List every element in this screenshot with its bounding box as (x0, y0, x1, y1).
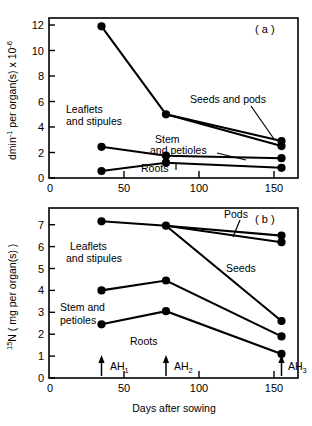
panel-b-ytick-7: 7 (38, 219, 44, 231)
panel-a-label-seeds-and-pods: Seeds and pods (190, 93, 266, 105)
panel-a-annotations: Leaflets and stipules Seeds and pods Ste… (66, 23, 275, 174)
panel-b-point-leaflets-35 (97, 217, 105, 225)
panel-b-tag: ( b ) (255, 213, 275, 225)
panel-b-x-axis-title: Days after sowing (132, 402, 216, 414)
panel-b-ylabel-main: N ( mg per organ(s) ) (6, 244, 18, 342)
panel-b-ylabel-sup: 15 (5, 342, 14, 350)
panel-a-xtick-100: 100 (190, 182, 208, 194)
panel-a-ytick-10: 10 (32, 45, 44, 57)
figure-container: 0 2 4 6 8 10 12 0 50 100 150 dmin-1 per … (0, 0, 312, 426)
panel-a-ylabel-sup1: -1 (5, 131, 14, 138)
panel-b-y-tick-labels: 0 1 2 3 4 5 6 7 (38, 219, 44, 384)
panel-b-label-leaflets-2: and stipules (66, 252, 122, 264)
panel-a-point-roots-35 (97, 167, 105, 175)
panel-b-label-ah3-sub: 3 (303, 366, 307, 375)
panel-b-label-ah3-base: AH (288, 360, 303, 372)
panel-a-ytick-12: 12 (32, 19, 44, 31)
panel-b-label-stem-2: petioles (60, 314, 96, 326)
panel-a-ytick-0: 0 (38, 172, 44, 184)
panel-b-xtick-50: 50 (118, 382, 130, 394)
panel-a-line-roots (102, 163, 282, 171)
panel-a-xtick-150: 150 (265, 182, 283, 194)
panel-b-label-ah2-sub: 2 (189, 366, 193, 375)
panel-a-y-axis-title: dmin-1 per organ(s) x 10-6 (5, 41, 18, 160)
panel-b-chart: 0 1 2 3 4 5 6 7 0 50 100 150 Days after … (0, 200, 312, 426)
panel-b-label-ah2-base: AH (174, 360, 189, 372)
panel-b-arrowhead-ah2 (163, 355, 169, 363)
panel-b-point-roots-35 (97, 320, 105, 328)
panel-b-ytick-0: 0 (38, 372, 44, 384)
panel-a-leader-lines (176, 106, 274, 170)
panel-a-line-leaflets (102, 26, 282, 141)
panel-a-point-stem-155 (277, 154, 285, 162)
panel-a-ytick-8: 8 (38, 70, 44, 82)
panel-a-line-seeds-and-pods (166, 114, 282, 146)
panel-b-ytick-5: 5 (38, 263, 44, 275)
panel-b-label-ah1-sub: 1 (125, 366, 129, 375)
panel-a-chart: 0 2 4 6 8 10 12 0 50 100 150 dmin-1 per … (0, 0, 312, 200)
panel-a-label-leaflets-2: and stipules (66, 115, 122, 127)
panel-b-label-ah1: AH1 (110, 360, 129, 375)
svg-text:15N ( mg per organ(s) ): 15N ( mg per organ(s) ) (5, 244, 18, 350)
panel-b-point-seeds-155 (277, 238, 285, 246)
panel-b-ytick-1: 1 (38, 350, 44, 362)
panel-b-point-leaflets-155 (277, 317, 285, 325)
panel-a-y-ticks (49, 25, 55, 178)
panel-b-xtick-0: 0 (47, 382, 53, 394)
panel-b-line-stem (102, 281, 282, 337)
panel-a-ylabel-mid: per organ(s) x 10 (6, 48, 18, 131)
panel-b-x-tick-labels: 0 50 100 150 (47, 382, 283, 394)
panel-a-x-tick-labels: 0 50 100 150 (47, 182, 283, 194)
panel-b-ytick-4: 4 (38, 284, 44, 296)
panel-a-ytick-4: 4 (38, 121, 44, 133)
panel-a-xtick-0: 0 (47, 182, 53, 194)
panel-a-ytick-6: 6 (38, 96, 44, 108)
panel-a-label-roots: Roots (141, 162, 168, 174)
panel-b-leader-lines (233, 220, 240, 237)
panel-b-label-leaflets-1: Leaflets (70, 240, 107, 252)
panel-a-point-roots-155 (277, 164, 285, 172)
panel-a-ytick-2: 2 (38, 147, 44, 159)
panel-b-ytick-3: 3 (38, 306, 44, 318)
panel-b-ytick-6: 6 (38, 241, 44, 253)
panel-a-point-seedspods-155 (277, 142, 285, 150)
panel-a-point-leaflets-35 (97, 22, 105, 30)
panel-a-ylabel-sup2: -6 (5, 41, 14, 48)
panel-b-label-ah1-base: AH (110, 360, 125, 372)
panel-b-label-seeds: Seeds (226, 262, 256, 274)
panel-a-label-leaflets-1: Leaflets (66, 103, 103, 115)
panel-b-point-leaflets-78 (162, 222, 170, 230)
svg-text:dmin-1 per organ(s) x 10-6: dmin-1 per organ(s) x 10-6 (5, 41, 18, 160)
panel-b-label-pods: Pods (224, 208, 248, 220)
panel-b-line-roots (102, 311, 282, 354)
panel-b-x-ticks (124, 371, 274, 378)
panel-b-point-stem-35 (97, 286, 105, 294)
panel-a-label-stem-2: and petioles (150, 144, 207, 156)
panel-a-ylabel-main: dmin (6, 137, 18, 160)
panel-b-xtick-100: 100 (190, 382, 208, 394)
panel-b-label-ah2: AH2 (174, 360, 193, 375)
panel-b-ah-arrowheads (98, 355, 284, 363)
panel-b-leader-pods (233, 220, 240, 237)
panel-a-xtick-50: 50 (118, 182, 130, 194)
panel-b-ytick-2: 2 (38, 328, 44, 340)
panel-a-y-tick-labels: 0 2 4 6 8 10 12 (32, 19, 44, 184)
panel-b-y-ticks (49, 225, 55, 378)
panel-b-arrowhead-ah1 (98, 355, 104, 363)
panel-b-point-stem-155 (277, 332, 285, 340)
panel-b-point-roots-78 (162, 307, 170, 315)
panel-b-xtick-150: 150 (265, 382, 283, 394)
panel-a-point-stem-35 (97, 143, 105, 151)
panel-a-tag: ( a ) (255, 23, 275, 35)
panel-b-y-axis-title: 15N ( mg per organ(s) ) (5, 244, 18, 350)
panel-a-point-leaflets-78 (162, 110, 170, 118)
panel-b-label-stem-1: Stem and (60, 301, 105, 313)
panel-b-series-lines (102, 221, 282, 354)
panel-b-label-roots: Roots (130, 335, 157, 347)
panel-b-point-stem-78 (162, 276, 170, 284)
